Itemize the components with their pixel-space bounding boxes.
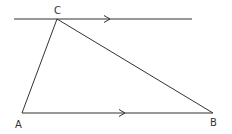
- label-b: B: [210, 117, 217, 128]
- label-a: A: [15, 119, 22, 130]
- label-c: C: [54, 5, 61, 16]
- side-cb: [57, 19, 213, 113]
- side-ac: [22, 19, 57, 113]
- triangle-diagram: C A B: [0, 0, 232, 134]
